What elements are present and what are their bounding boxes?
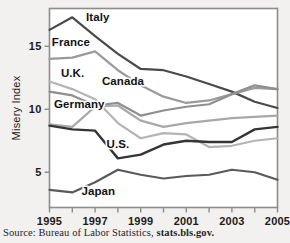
series-label-italy: Italy	[86, 11, 110, 23]
source-note: Source: Bureau of Labor Statistics, stat…	[3, 227, 214, 238]
y-tick-label: 10	[29, 103, 42, 115]
x-tick-label: 1999	[128, 215, 153, 227]
series-label-u-s: U.S.	[107, 138, 130, 150]
misery-index-line-chart: 51015 199519971999200120032005 Misery In…	[0, 0, 290, 243]
x-tick-label: 2001	[174, 215, 199, 227]
series-label-germany: Germany	[54, 98, 105, 110]
y-axis-title: Misery Index	[10, 75, 22, 140]
series-label-japan: Japan	[81, 185, 115, 197]
series-label-canada: Canada	[102, 75, 145, 87]
y-tick-label: 15	[29, 40, 42, 52]
x-tick-label: 2005	[265, 215, 290, 227]
y-tick-label: 5	[35, 166, 41, 178]
source-url: stats.bls.gov.	[157, 227, 215, 238]
x-tick-label: 1995	[37, 215, 62, 227]
series-label-u-k: U.K.	[61, 67, 84, 79]
chart-figure: 51015 199519971999200120032005 Misery In…	[0, 0, 290, 243]
x-tick-label: 1997	[82, 215, 107, 227]
x-tick-label: 2003	[219, 215, 244, 227]
series-label-france: France	[52, 36, 90, 48]
source-label: Source: Bureau of Labor Statistics,	[3, 227, 154, 238]
